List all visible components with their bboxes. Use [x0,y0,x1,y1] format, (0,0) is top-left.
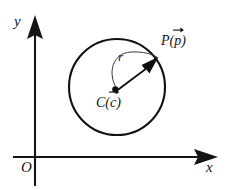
centre-symbol: C [96,95,105,110]
figure-canvas: y x O r C(c) P(p) [0,0,228,190]
x-axis-label: x [206,160,213,175]
point-vector-wrapper: p [174,34,181,48]
point-label: P(p) [161,34,186,48]
y-axis-label: y [14,14,21,29]
centre-label: C(c) [96,96,121,110]
x-axis [13,149,218,165]
centre-point-dot [112,86,118,92]
centre-vector-wrapper: c [110,96,116,110]
point-symbol: P [161,33,170,48]
origin-label: O [21,160,32,175]
point-close-paren: ) [181,33,186,48]
point-vector-symbol: p [174,33,181,48]
radius-label: r [118,50,123,63]
centre-close-paren: ) [116,95,121,110]
centre-vector-symbol: c [110,95,116,110]
